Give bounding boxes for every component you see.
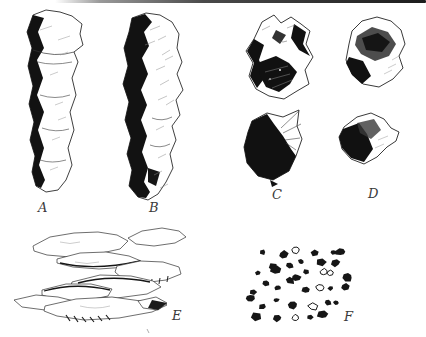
specimen-d-lower-illustration xyxy=(339,113,399,164)
specimen-a-illustration xyxy=(27,10,83,192)
label-specimen-b: B xyxy=(149,201,159,214)
label-specimen-e: E xyxy=(172,309,182,322)
specimen-f-grains xyxy=(246,247,352,322)
specimen-illustrations xyxy=(0,0,426,337)
specimen-c-upper-illustration xyxy=(246,15,313,99)
label-specimen-c: C xyxy=(272,188,282,201)
specimen-b-illustration xyxy=(123,13,183,200)
specimen-plate-figure: A B C D E F xyxy=(0,0,426,337)
specimen-c-lower-illustration xyxy=(244,110,302,187)
label-specimen-d: D xyxy=(368,187,378,200)
specimen-e-illustration xyxy=(14,228,186,333)
label-specimen-a: A xyxy=(38,201,47,214)
specimen-d-upper-illustration xyxy=(346,17,405,87)
label-specimen-f: F xyxy=(344,310,353,323)
